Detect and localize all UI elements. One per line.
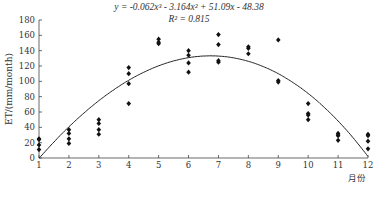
- data-point: [126, 71, 131, 76]
- fit-curve: [39, 56, 368, 158]
- data-point: [126, 101, 131, 106]
- y-tick-label: 140: [19, 46, 35, 56]
- data-point: [186, 48, 191, 53]
- data-point: [67, 141, 72, 146]
- x-tick-label: 2: [66, 160, 71, 170]
- data-point: [37, 147, 42, 152]
- data-point: [306, 101, 311, 106]
- y-tick-label: 0: [30, 153, 35, 163]
- data-point: [126, 81, 131, 86]
- data-point: [186, 60, 191, 65]
- data-point: [97, 121, 102, 126]
- data-point: [97, 132, 102, 137]
- data-point: [216, 32, 221, 37]
- x-axis-label: 月份: [348, 173, 366, 183]
- y-tick-label: 100: [19, 76, 35, 86]
- y-tick-label: 20: [24, 138, 35, 148]
- x-tick-label: 6: [186, 160, 191, 170]
- data-point: [37, 137, 42, 142]
- x-tick-label: 7: [216, 160, 221, 170]
- data-point: [67, 136, 72, 141]
- y-tick-label: 40: [24, 122, 35, 132]
- y-tick-label: 120: [19, 61, 35, 71]
- x-tick-label: 11: [333, 160, 344, 170]
- data-point: [246, 51, 251, 56]
- data-point: [366, 146, 371, 151]
- x-tick-label: 8: [246, 160, 251, 170]
- x-tick-label: 9: [276, 160, 281, 170]
- x-tick-label: 5: [156, 160, 161, 170]
- data-point: [97, 127, 102, 132]
- data-point: [336, 138, 341, 143]
- y-tick-label: 80: [24, 92, 35, 102]
- data-point: [186, 70, 191, 75]
- y-tick-label: 60: [24, 107, 35, 117]
- data-point: [37, 142, 42, 147]
- data-point: [276, 37, 281, 42]
- x-tick-label: 4: [126, 160, 131, 170]
- y-tick-label: 180: [19, 15, 35, 25]
- y-axis-label: ET/(mm/month): [4, 53, 14, 125]
- x-tick-label: 1: [36, 160, 41, 170]
- scatter-chart: 020406080100120140160180123456789101112E…: [0, 0, 378, 198]
- x-tick-label: 10: [303, 160, 314, 170]
- x-tick-label: 12: [363, 160, 374, 170]
- data-point: [306, 117, 311, 122]
- data-point: [126, 65, 131, 70]
- data-point: [67, 131, 72, 136]
- x-tick-label: 3: [96, 160, 101, 170]
- data-point: [216, 42, 221, 47]
- data-point: [366, 139, 371, 144]
- y-tick-label: 160: [19, 30, 35, 40]
